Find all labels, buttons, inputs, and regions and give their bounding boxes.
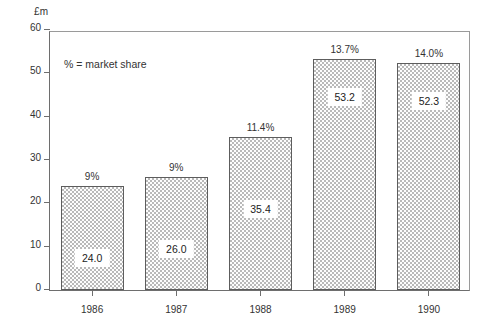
x-tick-mark [344, 290, 345, 296]
y-tick-label: 10 [30, 239, 41, 250]
bar[interactable]: 52.3 [397, 63, 460, 290]
bar[interactable]: 26.0 [145, 177, 208, 290]
bar-value-label: 26.0 [159, 240, 193, 258]
y-tick-label: 0 [35, 282, 41, 293]
y-tick-label: 20 [30, 195, 41, 206]
plot-area: 0102030405060 % = market share 24.09%26.… [49, 31, 470, 291]
bars-layer: 24.09%26.09%35.411.4%53.213.7%52.314.0% [50, 32, 469, 290]
bar-market-share-label: 14.0% [367, 48, 490, 59]
bar-value-label: 53.2 [327, 88, 361, 106]
bar-group[interactable]: 52.314.0% [397, 41, 460, 290]
y-tick-label: 60 [30, 22, 41, 33]
bar-value-label: 52.3 [412, 92, 446, 110]
bar[interactable]: 53.2 [313, 59, 376, 290]
x-tick-label: 1986 [52, 304, 132, 315]
x-tick-label: 1988 [221, 304, 301, 315]
bar-value-label: 24.0 [75, 249, 109, 267]
y-tick-label: 30 [30, 152, 41, 163]
x-tick-label: 1989 [305, 304, 385, 315]
x-tick-mark [260, 290, 261, 296]
x-tick-mark [176, 290, 177, 296]
bar-market-share-label: 9% [115, 162, 238, 173]
y-axis-title: £m [34, 6, 48, 17]
y-tick-mark [44, 29, 50, 30]
bar-group[interactable]: 35.411.4% [229, 115, 292, 290]
bar-value-label: 35.4 [243, 200, 277, 218]
x-tick-mark [92, 290, 93, 296]
bar-group[interactable]: 24.09% [61, 164, 124, 290]
x-tick-label: 1987 [136, 304, 216, 315]
x-tick-label: 1990 [389, 304, 469, 315]
bar-group[interactable]: 26.09% [145, 155, 208, 290]
bar-chart: £m 0102030405060 % = market share 24.09%… [0, 0, 495, 323]
y-tick-label: 50 [30, 65, 41, 76]
bar[interactable]: 24.0 [61, 186, 124, 290]
bar-market-share-label: 11.4% [199, 122, 322, 133]
x-tick-mark [428, 290, 429, 296]
bar[interactable]: 35.4 [229, 137, 292, 290]
bar-group[interactable]: 53.213.7% [313, 37, 376, 290]
y-tick-label: 40 [30, 109, 41, 120]
